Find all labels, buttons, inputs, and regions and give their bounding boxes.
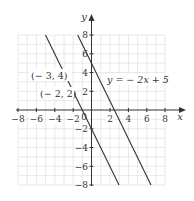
y-tick-label: 8 (82, 30, 88, 40)
x-tick-label: 2 (107, 114, 113, 124)
x-tick-label: 4 (126, 114, 132, 124)
y-tick-label: 2 (82, 87, 88, 97)
x-tick-label: −2 (67, 114, 80, 124)
coordinate-plane: −8 −6 −4 −2 2 4 6 8 8 6 4 2 −2 −4 −6 −8 … (0, 0, 194, 201)
equation-label: y = − 2x + 5 (106, 74, 169, 85)
origin-label: 0 (81, 112, 87, 122)
y-tick-label: 6 (82, 49, 88, 59)
x-tick-label: −8 (11, 114, 25, 124)
x-tick-label: −6 (30, 114, 44, 124)
y-tick-label: −6 (75, 162, 89, 172)
y-axis-arrow-icon (89, 14, 95, 21)
x-tick-label: −4 (48, 114, 62, 124)
y-axis (89, 14, 95, 186)
y-tick-label: −4 (75, 143, 89, 153)
y-tick-label: 4 (82, 68, 88, 78)
point-label-b: (− 2, 2) (40, 88, 77, 99)
y-tick-label: −8 (75, 180, 89, 190)
x-axis-label: x (177, 111, 183, 122)
x-tick-label: 8 (162, 114, 168, 124)
y-axis-label: y (80, 11, 87, 22)
point-label-a: (− 3, 4) (31, 70, 68, 81)
x-tick-label: 6 (144, 114, 150, 124)
y-tick-label: −2 (75, 124, 88, 134)
